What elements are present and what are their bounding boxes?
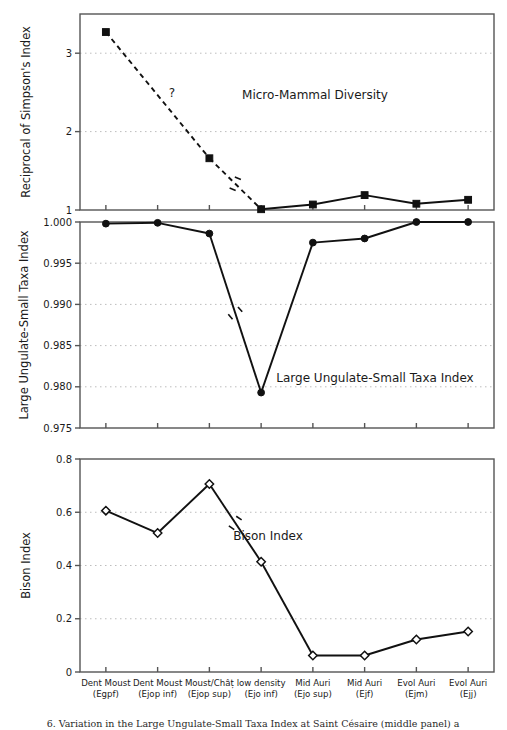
series-segment <box>158 484 210 533</box>
y-axis-title: Bison Index <box>19 532 33 599</box>
x-axis-label-line2: (Ejop sup) <box>188 689 231 699</box>
data-point-diamond <box>412 635 420 643</box>
break-tick-a <box>236 515 241 521</box>
series-segment <box>416 200 468 204</box>
caption-line: 6. Variation in the Large Ungulate-Small… <box>47 718 460 729</box>
data-point-square <box>258 206 265 213</box>
x-axis-label-line1: Mid Auri <box>347 678 382 688</box>
y-tick-label: 0.6 <box>56 507 72 518</box>
figure-caption: 6. Variation in the Large Ungulate-Small… <box>47 718 460 729</box>
break-tick-b <box>230 186 236 192</box>
x-axis-label-line1: Evol Auri <box>449 678 487 688</box>
break-tick-a <box>235 175 241 181</box>
data-point-square <box>102 29 109 36</box>
y-tick-label: 1.000 <box>43 217 72 228</box>
data-point-square <box>413 200 420 207</box>
data-point-circle <box>258 389 265 396</box>
x-axis-label-line1: Evol Auri <box>397 678 435 688</box>
data-point-diamond <box>309 651 317 659</box>
data-point-circle <box>413 219 420 226</box>
x-axis-label-line1: Moust/Châț <box>185 678 235 689</box>
series-segment <box>106 223 158 224</box>
multi-panel-line-chart: 123Reciprocal of Simpson's Index?Micro-M… <box>0 0 507 730</box>
y-tick-label: 0.995 <box>43 258 72 269</box>
break-tick-b <box>228 313 232 319</box>
series-segment <box>209 484 261 562</box>
data-point-circle <box>465 219 472 226</box>
x-axis-label-line1: Mid Auri <box>295 678 330 688</box>
y-tick-label: 0.985 <box>43 340 72 351</box>
x-axis-label-line2: (Ejf) <box>356 689 374 699</box>
data-point-square <box>309 201 316 208</box>
series-segment <box>365 222 417 238</box>
y-tick-label: 0.975 <box>43 423 72 434</box>
series-segment <box>313 195 365 204</box>
figure-container: 123Reciprocal of Simpson's Index?Micro-M… <box>0 0 507 730</box>
series-segment <box>209 234 261 393</box>
y-axis-title: Reciprocal of Simpson's Index <box>19 26 33 198</box>
x-axis-label-line2: (Egpf) <box>93 689 119 699</box>
y-tick-label: 0.2 <box>56 613 72 624</box>
data-point-diamond <box>360 651 368 659</box>
x-axis-label-line2: (Ejm) <box>405 689 428 699</box>
series-segment-dashed <box>209 158 261 209</box>
break-tick-a <box>238 306 242 312</box>
panel-title: Bison Index <box>233 529 303 543</box>
series-segment <box>365 195 417 204</box>
y-tick-label: 1 <box>66 205 72 216</box>
data-point-circle <box>309 239 316 246</box>
x-axis-label-line1: low density <box>237 678 286 688</box>
y-tick-label: 3 <box>66 48 72 59</box>
uncertainty-annotation: ? <box>169 86 175 100</box>
series-segment <box>416 632 468 640</box>
x-axis-label-line1: Dent Moust <box>133 678 183 688</box>
panel-title: Large Ungulate-Small Taxa Index <box>276 371 473 385</box>
series-segment <box>261 205 313 210</box>
y-axis-title: Large Ungulate-Small Taxa Index <box>17 230 31 419</box>
data-point-circle <box>102 220 109 227</box>
data-point-circle <box>361 235 368 242</box>
y-tick-label: 2 <box>66 126 72 137</box>
series-segment-dashed <box>106 32 210 158</box>
x-axis-label-line2: (Ejj) <box>460 689 477 699</box>
y-tick-label: 0.990 <box>43 299 72 310</box>
data-point-square <box>465 196 472 203</box>
x-axis-label-line1: Dent Moust <box>81 678 131 688</box>
y-tick-label: 0.8 <box>56 454 72 465</box>
panel-bottom: 00.20.40.60.8Bison IndexBison Index <box>19 454 494 678</box>
data-point-circle <box>206 230 213 237</box>
x-axis-label-line2: (Ejo sup) <box>294 689 332 699</box>
series-segment <box>106 511 158 533</box>
panel-title: Micro-Mammal Diversity <box>242 88 388 102</box>
data-point-square <box>206 155 213 162</box>
y-tick-label: 0.4 <box>56 560 72 571</box>
x-axis-labels: Dent Moust(Egpf)Dent Moust(Ejop inf)Mous… <box>81 678 487 699</box>
data-point-diamond <box>102 506 110 514</box>
data-point-square <box>361 192 368 199</box>
x-axis-label-line2: (Ejop inf) <box>138 689 177 699</box>
x-axis-label-line2: (Ejo inf) <box>244 689 277 699</box>
data-point-diamond <box>464 627 472 635</box>
plot-frame <box>80 222 494 428</box>
plot-frame <box>80 459 494 672</box>
panel-top: 123Reciprocal of Simpson's Index?Micro-M… <box>19 14 494 216</box>
y-tick-label: 0 <box>66 667 72 678</box>
data-point-circle <box>154 219 161 226</box>
series-segment <box>365 640 417 656</box>
y-tick-label: 0.980 <box>43 381 72 392</box>
series-segment <box>261 562 313 656</box>
series-segment <box>313 238 365 242</box>
panel-middle: 0.9750.9800.9850.9900.9951.000Large Ungu… <box>17 217 494 434</box>
series-segment <box>158 223 210 234</box>
plot-frame <box>80 14 494 210</box>
